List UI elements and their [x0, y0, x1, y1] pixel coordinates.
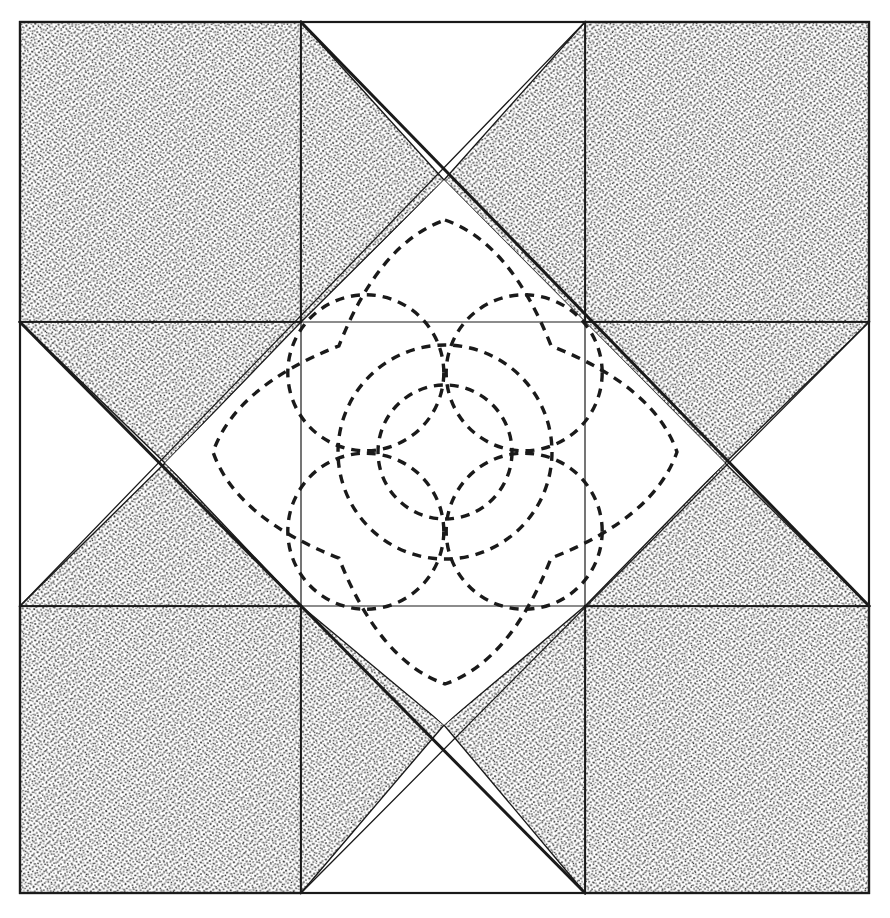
quilt-block-diagram — [0, 0, 890, 918]
corner-top-right — [585, 22, 869, 322]
corner-bottom-left — [20, 606, 301, 893]
quilt-pattern-canvas — [0, 0, 890, 918]
corner-top-left — [20, 22, 301, 322]
corner-bottom-right — [585, 606, 869, 893]
